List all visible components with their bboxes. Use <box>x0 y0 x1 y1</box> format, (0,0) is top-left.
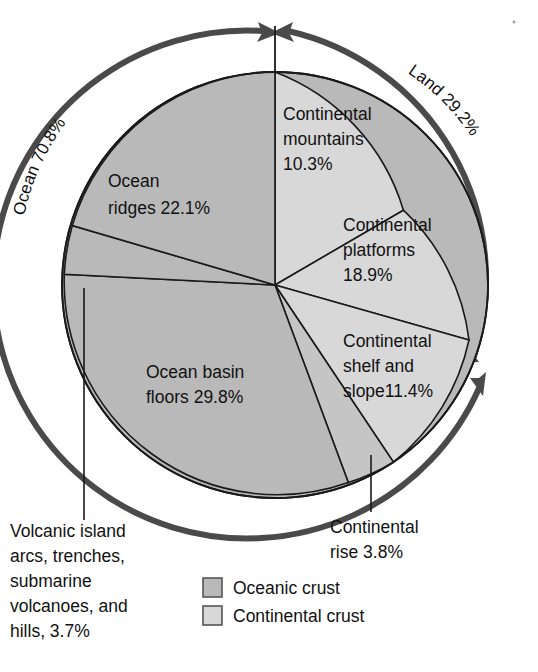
legend-label-continental-crust: Continental crust <box>233 606 364 626</box>
pie-body <box>62 72 488 498</box>
pie-chart-figure: Ocean ridges 22.1% Ocean basin floors 29… <box>0 0 538 672</box>
legend-label-oceanic-crust: Oceanic crust <box>233 578 340 598</box>
legend-swatch-oceanic-crust <box>203 578 222 597</box>
legend-swatch-continental-crust <box>203 606 222 625</box>
scan-speck <box>513 21 516 24</box>
